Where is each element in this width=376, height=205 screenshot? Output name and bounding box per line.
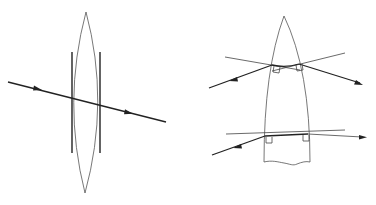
section-left-edge xyxy=(264,16,284,162)
lower-ray-outgoing xyxy=(308,134,362,137)
lens-outline xyxy=(74,12,98,193)
ray-arrow-icon xyxy=(229,77,238,82)
lower-ray-internal xyxy=(265,134,308,136)
figure-canvas xyxy=(0,0,376,205)
ray-arrow-icon xyxy=(359,135,367,140)
ray-arrow-icon xyxy=(124,109,133,114)
upper-ray-internal xyxy=(272,64,299,66)
section-right-edge xyxy=(284,16,310,162)
lower-normal xyxy=(226,130,345,134)
wavy-cut-bottom xyxy=(264,161,310,165)
right-angle-marker xyxy=(266,137,272,143)
ray-arrow-icon xyxy=(354,80,363,85)
upper-ray-incoming xyxy=(209,65,272,88)
ray-arrow-icon xyxy=(33,86,42,91)
ray-arrow-icon xyxy=(233,144,242,149)
lens-ray xyxy=(8,82,166,122)
optics-diagram xyxy=(0,0,376,205)
upper-ray-outgoing xyxy=(299,64,360,83)
tapered-lens-diagram xyxy=(209,16,367,165)
right-angle-marker xyxy=(303,135,309,141)
upper-normal-right xyxy=(272,53,345,71)
biconvex-lens-diagram xyxy=(8,12,166,193)
